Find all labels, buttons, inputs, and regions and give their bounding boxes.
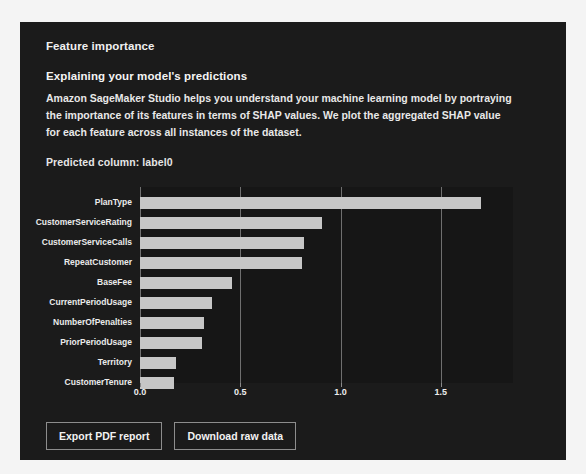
- chart-y-axis-label: Territory: [98, 356, 132, 369]
- chart-bar-row: PlanType: [140, 193, 513, 213]
- chart-y-axis-label: RepeatCustomer: [64, 256, 132, 269]
- chart-bar: [140, 317, 204, 329]
- chart-plot-area: PlanTypeCustomerServiceRatingCustomerSer…: [140, 187, 513, 383]
- chart-bar-row: CustomerServiceRating: [140, 213, 513, 233]
- chart-bar-row: PriorPeriodUsage: [140, 333, 513, 353]
- chart-y-axis-label: PlanType: [95, 196, 132, 209]
- chart-y-axis-label: BaseFee: [97, 276, 132, 289]
- chart-bar-row: BaseFee: [140, 273, 513, 293]
- chart-bar: [140, 337, 202, 349]
- chart-bar: [140, 197, 481, 209]
- description-text: Amazon SageMaker Studio helps you unders…: [46, 90, 512, 141]
- chart-bar: [140, 277, 232, 289]
- page-title: Feature importance: [46, 40, 155, 52]
- chart-bar-row: CustomerServiceCalls: [140, 233, 513, 253]
- download-raw-data-button[interactable]: Download raw data: [174, 422, 296, 450]
- export-pdf-report-button[interactable]: Export PDF report: [46, 422, 162, 450]
- chart-bar-row: CustomerTenure: [140, 373, 513, 393]
- feature-importance-chart: PlanTypeCustomerServiceRatingCustomerSer…: [20, 187, 566, 422]
- action-button-bar: Export PDF report Download raw data: [46, 422, 296, 450]
- chart-x-tick-label: 0.0: [134, 387, 147, 397]
- chart-bar-row: NumberOfPenalties: [140, 313, 513, 333]
- chart-y-axis-label: PriorPeriodUsage: [60, 336, 132, 349]
- chart-bar-row: Territory: [140, 353, 513, 373]
- feature-importance-panel: Feature importance Explaining your model…: [20, 22, 566, 460]
- chart-x-tick-label: 1.0: [334, 387, 347, 397]
- chart-bar-row: RepeatCustomer: [140, 253, 513, 273]
- chart-bar: [140, 357, 176, 369]
- chart-x-tick-label: 1.5: [435, 387, 448, 397]
- chart-bar: [140, 257, 302, 269]
- predicted-column-label: Predicted column: label0: [46, 156, 173, 168]
- chart-bar: [140, 237, 304, 249]
- chart-y-axis-label: CustomerServiceCalls: [42, 236, 132, 249]
- section-subtitle: Explaining your model's predictions: [46, 70, 247, 82]
- chart-y-axis-label: CustomerTenure: [65, 376, 132, 389]
- chart-x-tick-label: 0.5: [234, 387, 247, 397]
- chart-y-axis-label: NumberOfPenalties: [53, 316, 132, 329]
- chart-bar: [140, 297, 212, 309]
- chart-y-axis-label: CustomerServiceRating: [36, 216, 132, 229]
- chart-bar-row: CurrentPeriodUsage: [140, 293, 513, 313]
- chart-y-axis-label: CurrentPeriodUsage: [49, 296, 132, 309]
- chart-bar: [140, 217, 322, 229]
